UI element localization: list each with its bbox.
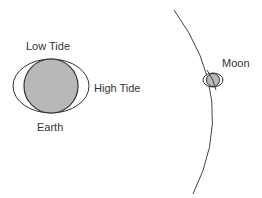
earth-circle	[24, 59, 78, 113]
moon-orbit-path	[174, 10, 213, 194]
tides-diagram: Low Tide High Tide Earth Moon	[0, 0, 262, 198]
moon-label: Moon	[222, 57, 250, 69]
low-tide-label: Low Tide	[26, 40, 70, 52]
high-tide-label: High Tide	[94, 82, 140, 94]
earth-group	[13, 59, 89, 113]
earth-label: Earth	[37, 121, 63, 133]
